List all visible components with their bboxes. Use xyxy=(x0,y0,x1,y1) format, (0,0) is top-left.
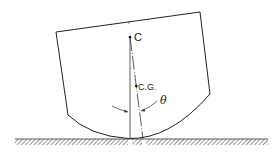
rocking-body-outline xyxy=(56,12,210,139)
ground-hatch-left xyxy=(15,139,128,145)
ground xyxy=(15,139,268,145)
angle-arrowhead-right-icon xyxy=(141,108,145,111)
center-of-gravity-label: C.G. xyxy=(138,82,157,92)
ground-hatch-middle xyxy=(132,139,142,145)
center-of-curvature-point xyxy=(129,36,132,39)
center-of-curvature-label: C xyxy=(134,31,142,43)
rocking-body-diagram: C C.G. θ xyxy=(0,0,280,158)
ground-hatch-right xyxy=(146,139,268,145)
tilt-angle-label: θ xyxy=(160,94,167,107)
